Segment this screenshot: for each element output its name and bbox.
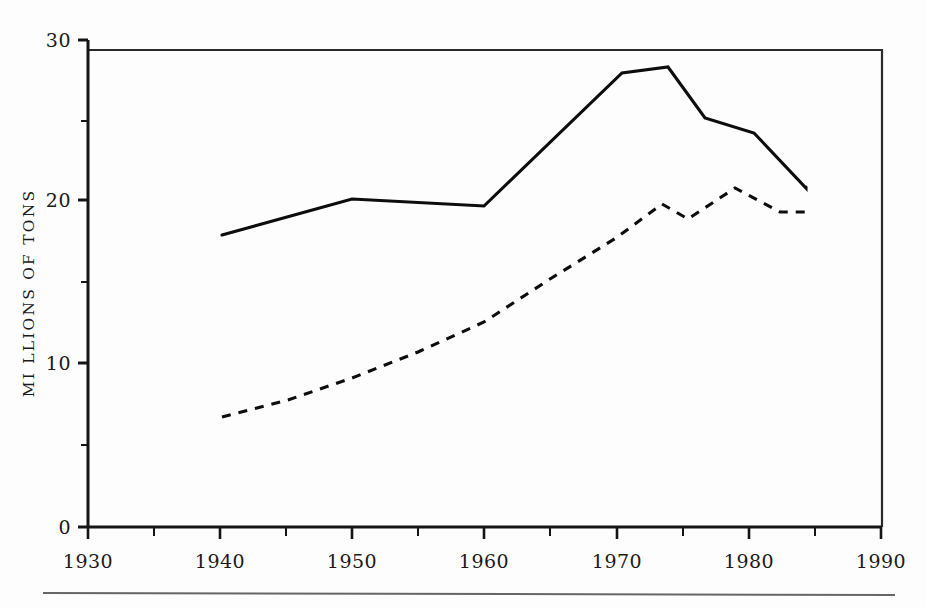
x-tick-labels: 1930 1940 1950 1960 1970 1980 1990 xyxy=(63,550,906,572)
data-series-group xyxy=(222,67,806,417)
x-tick-label-1980: 1980 xyxy=(724,550,774,572)
line-chart: 30 20 10 0 1930 1940 1950 1960 1970 1980… xyxy=(0,0,926,607)
y-tick-label-30: 30 xyxy=(46,29,71,51)
x-tick-label-1940: 1940 xyxy=(195,550,245,572)
y-axis-title: MI LLIONS OF TONS xyxy=(20,189,38,397)
series-dashed-line xyxy=(222,188,806,417)
x-tick-label-1930: 1930 xyxy=(63,550,113,572)
x-tick-label-1970: 1970 xyxy=(592,550,642,572)
plot-frame xyxy=(88,50,882,527)
x-tick-label-1960: 1960 xyxy=(459,550,509,572)
footer-rule xyxy=(43,593,895,595)
x-axis xyxy=(88,527,882,539)
y-tick-label-20: 20 xyxy=(46,189,71,211)
y-axis-title-group: MI LLIONS OF TONS xyxy=(20,189,38,397)
frame-top-right xyxy=(88,50,882,527)
x-tick-label-1950: 1950 xyxy=(327,550,377,572)
chart-figure: 30 20 10 0 1930 1940 1950 1960 1970 1980… xyxy=(0,0,926,607)
y-axis xyxy=(78,40,88,527)
y-tick-labels: 30 20 10 0 xyxy=(46,29,71,538)
y-tick-label-10: 10 xyxy=(46,352,71,374)
x-tick-label-1990: 1990 xyxy=(856,550,906,572)
y-tick-label-0: 0 xyxy=(58,516,71,538)
series-solid-line xyxy=(222,67,806,235)
